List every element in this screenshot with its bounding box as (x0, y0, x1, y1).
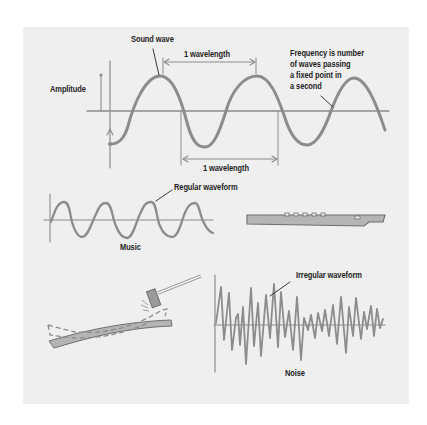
label-wavelength-bottom: 1 wavelength (203, 163, 249, 174)
flute-icon (247, 213, 385, 226)
label-irregular-waveform: Irregular waveform (296, 270, 362, 281)
label-regular-waveform: Regular waveform (174, 182, 237, 193)
vibrating-metal-bar (48, 309, 172, 348)
regular-waveform-section (44, 190, 213, 242)
irregular-waveform (216, 284, 383, 364)
label-sound-wave: Sound wave (131, 34, 174, 45)
irregular-waveform-section (214, 275, 385, 372)
label-frequency-4: a second (290, 81, 322, 92)
label-frequency-2: of waves passing (290, 59, 351, 70)
label-amplitude: Amplitude (50, 84, 86, 95)
sound-wave-diagram (0, 0, 427, 425)
label-frequency-3: a fixed point in (290, 70, 341, 81)
label-music: Music (120, 242, 141, 253)
label-frequency-1: Frequency is number (290, 48, 364, 59)
label-noise: Noise (285, 368, 305, 379)
hammer-icon (141, 276, 201, 311)
label-wavelength-top: 1 wavelength (184, 49, 230, 60)
